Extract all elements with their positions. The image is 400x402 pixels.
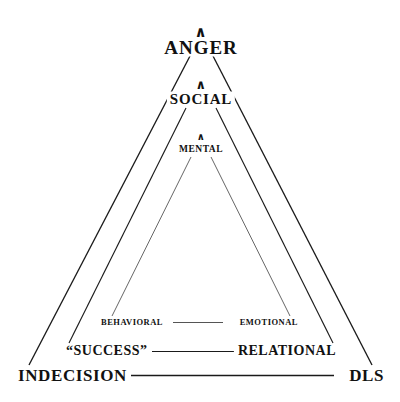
inner-apex-caret-icon: ∧ (194, 132, 209, 142)
middle-apex-caret-icon: ∧ (192, 78, 209, 91)
middle-triangle-left-edge (69, 108, 186, 343)
base-label-relational: RELATIONAL (234, 344, 340, 358)
base-label-indecision: INDECISION (14, 367, 131, 384)
inner-triangle-edges (112, 157, 290, 323)
triangle-diagram: ∧ ANGER ∧ SOCIAL ∧ MENTAL BEHAVIORAL EMO… (0, 0, 400, 402)
diagram-canvas (0, 0, 400, 402)
apex-label-social: SOCIAL (167, 92, 235, 107)
apex-label-anger: ANGER (161, 38, 241, 57)
middle-triangle-right-edge (216, 108, 333, 343)
inner-triangle-right-edge (211, 157, 290, 316)
apex-label-mental: MENTAL (176, 145, 226, 155)
base-label-behavioral: BEHAVIORAL (97, 318, 167, 327)
base-label-success: “SUCCESS” (62, 344, 152, 358)
base-label-dls: DLS (345, 367, 388, 384)
base-label-emotional: EMOTIONAL (236, 318, 302, 327)
inner-triangle-left-edge (112, 157, 191, 316)
